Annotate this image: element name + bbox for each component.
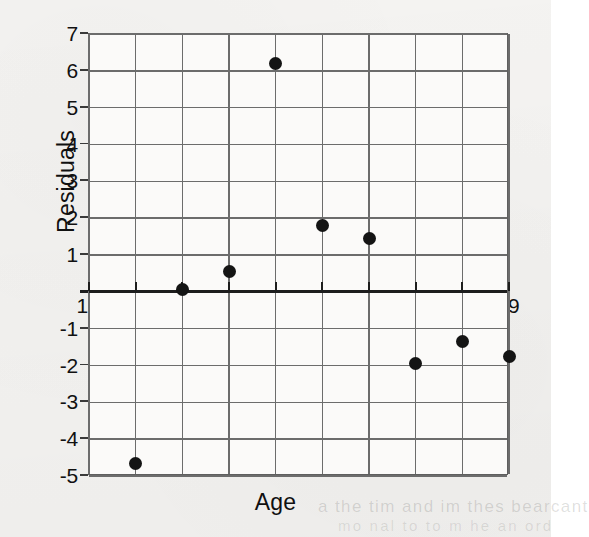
x-tick-mark <box>508 282 510 291</box>
y-tick-mark <box>80 364 88 366</box>
y-tick-label: -5 <box>32 465 78 486</box>
data-point <box>129 457 142 470</box>
gridline-vertical <box>275 34 276 474</box>
gridline-horizontal <box>89 328 507 329</box>
y-tick-label: -4 <box>32 428 78 449</box>
gridline-vertical <box>415 34 416 474</box>
y-tick-label: -1 <box>32 318 78 339</box>
y-tick-mark <box>80 179 88 181</box>
y-tick-mark <box>80 327 88 329</box>
data-point <box>456 335 469 348</box>
y-tick-mark <box>80 32 88 34</box>
gridline-horizontal <box>89 438 507 439</box>
x-axis-title: Age <box>0 489 551 516</box>
gridline-horizontal <box>89 107 507 108</box>
gridline-vertical <box>462 34 463 474</box>
zero-axis-line <box>89 290 507 293</box>
y-tick-label: 4 <box>32 134 78 155</box>
x-tick-mark <box>228 282 230 291</box>
y-tick-mark <box>80 216 88 218</box>
x-tick-mark <box>275 282 277 291</box>
gridline-horizontal <box>89 254 507 255</box>
y-tick-mark <box>80 69 88 71</box>
x-tick-mark <box>88 282 90 291</box>
x-tick-mark <box>415 282 417 291</box>
x-tick-mark <box>368 282 370 291</box>
gridline-vertical <box>368 34 369 474</box>
gridline-horizontal <box>89 475 507 476</box>
data-point <box>363 232 376 245</box>
y-tick-label: 7 <box>32 23 78 44</box>
y-tick-label: 3 <box>32 170 78 191</box>
data-point <box>223 265 236 278</box>
data-point <box>503 350 516 363</box>
gridline-vertical <box>88 34 89 474</box>
y-tick-mark <box>80 400 88 402</box>
gridline-vertical <box>508 34 509 474</box>
y-tick-label: 6 <box>32 60 78 81</box>
x-tick-mark <box>461 282 463 291</box>
y-tick-label: 1 <box>32 244 78 265</box>
gridline-vertical <box>228 34 229 474</box>
y-tick-label: -2 <box>32 355 78 376</box>
gridline-vertical <box>322 34 323 474</box>
plot-area <box>88 33 508 475</box>
gridline-horizontal <box>89 181 507 182</box>
data-point <box>269 57 282 70</box>
data-point <box>316 219 329 232</box>
y-tick-label: -3 <box>32 391 78 412</box>
y-tick-mark <box>80 106 88 108</box>
y-tick-mark <box>80 253 88 255</box>
scan-bleed-text-2: mo nal to to m he an ord <box>338 517 553 534</box>
y-tick-mark <box>80 143 88 145</box>
x-tick-mark <box>135 282 137 291</box>
gridline-horizontal <box>89 70 507 71</box>
x-tick-mark <box>321 282 323 291</box>
gridline-horizontal <box>89 365 507 366</box>
gridline-vertical <box>182 34 183 474</box>
y-tick-label: 2 <box>32 207 78 228</box>
y-tick-mark <box>80 474 88 476</box>
y-tick-label: 5 <box>32 97 78 118</box>
gridline-horizontal <box>89 217 507 218</box>
gridline-horizontal <box>89 402 507 403</box>
gridline-horizontal <box>89 144 507 145</box>
y-tick-mark <box>80 437 88 439</box>
gridline-horizontal <box>89 33 507 34</box>
gridline-vertical <box>135 34 136 474</box>
data-point <box>409 357 422 370</box>
data-point <box>176 283 189 296</box>
